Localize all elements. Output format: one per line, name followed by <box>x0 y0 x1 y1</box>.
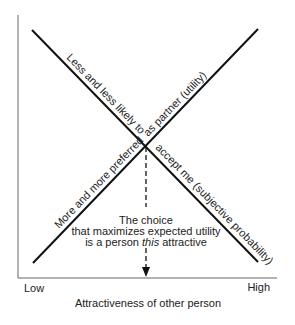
annotation-line-3-prefix: is a person <box>85 236 142 248</box>
arrow-head-icon <box>142 267 150 277</box>
x-axis-low-label: Low <box>24 282 44 294</box>
annotation-line-3-suffix: attractive <box>159 236 207 248</box>
ascending-line-label-upper: as partner (utility) <box>141 69 209 138</box>
x-axis-high-label: High <box>247 281 270 293</box>
annotation-line-3: is a person this attractive <box>85 236 207 248</box>
annotation-line-3-emphasis: this <box>142 236 160 248</box>
descending-line-label-upper: Less and less likely to <box>65 51 148 136</box>
x-axis-title: Attractiveness of other person <box>75 297 221 309</box>
expected-utility-diagram: Less and less likely to accept me (subje… <box>0 0 295 325</box>
